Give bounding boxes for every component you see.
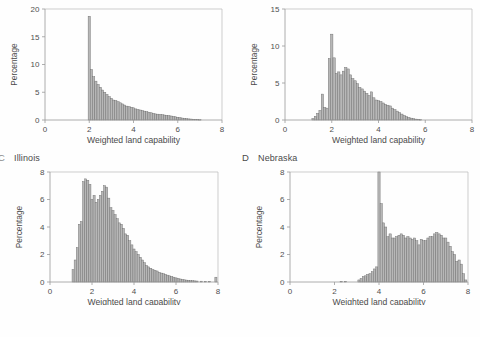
histogram-bar [171, 277, 173, 283]
histogram-bar [460, 264, 462, 282]
histogram-bar [438, 234, 440, 282]
histogram-bar [338, 72, 340, 120]
histogram-bar [137, 255, 139, 283]
histogram-bar [157, 114, 159, 120]
panel-d-chart: 0246802468Weighted land capabilityPercen… [240, 150, 480, 305]
histogram-bar [132, 108, 134, 120]
bar-group [340, 172, 467, 282]
histogram-bar [108, 198, 110, 282]
y-tick-label: 0 [40, 278, 45, 287]
histogram-bar [314, 116, 316, 120]
histogram-bar [74, 260, 76, 282]
histogram-bar [429, 237, 431, 282]
histogram-bar [130, 107, 132, 120]
histogram-bar [126, 106, 128, 120]
histogram-bar [121, 104, 123, 120]
histogram-bar [128, 107, 130, 120]
y-axis-title: Percentage [9, 43, 19, 86]
histogram-bar [328, 59, 330, 120]
histogram-bar [447, 242, 449, 282]
histogram-bar [391, 108, 393, 120]
histogram-bar [72, 270, 74, 282]
histogram-bar [391, 238, 393, 282]
x-tick-label: 0 [48, 287, 53, 296]
histogram-bar [370, 92, 372, 120]
histogram-bar [363, 91, 365, 120]
histogram-bar [139, 257, 141, 282]
histogram-bar [115, 101, 117, 120]
y-tick-label: 2 [40, 250, 45, 259]
x-tick-label: 4 [377, 287, 382, 296]
histogram-bar [376, 267, 378, 282]
histogram-bar [405, 117, 407, 120]
histogram-bar [116, 219, 118, 282]
histogram-bar [340, 75, 342, 120]
histogram-bar [173, 277, 175, 282]
histogram-bar [361, 89, 363, 120]
x-tick-label: 8 [216, 287, 221, 296]
histogram-bar [373, 98, 375, 120]
histogram-bar [120, 224, 122, 282]
histogram-bar [137, 109, 139, 120]
histogram-bar [422, 241, 424, 282]
bar-group [72, 179, 217, 282]
histogram-bar [352, 79, 354, 120]
histogram-bar [158, 272, 160, 282]
y-axis-title: Percentage [14, 205, 24, 248]
bar-group [312, 34, 422, 120]
y-tick-label: 15 [271, 5, 280, 14]
histogram-bar [146, 112, 148, 120]
y-tick-label: 10 [31, 60, 40, 69]
x-axis-title: Weighted land capability [87, 135, 181, 145]
histogram-bar [89, 184, 91, 282]
histogram-bar [175, 278, 177, 282]
y-tick-label: 15 [31, 33, 40, 42]
histogram-bar [382, 223, 384, 282]
histogram-bar [375, 100, 377, 120]
histogram-bar [150, 268, 152, 282]
histogram-bar [462, 274, 464, 282]
histogram-bar [420, 239, 422, 282]
x-tick-label: 2 [330, 125, 335, 134]
histogram-bar [164, 274, 166, 282]
histogram-bar [369, 274, 371, 282]
histogram-bar [354, 81, 356, 120]
histogram-bar [427, 238, 429, 282]
x-tick-label: 2 [90, 287, 95, 296]
figure-sheet: 0510152002468Weighted land capabilityPer… [0, 0, 480, 337]
y-axis-title: Percentage [254, 205, 264, 248]
histogram-bar [393, 238, 395, 282]
histogram-bar [368, 96, 370, 120]
y-tick-label: 6 [40, 195, 45, 204]
histogram-bar [160, 273, 162, 282]
histogram-bar [360, 279, 362, 282]
histogram-bar [159, 114, 161, 120]
histogram-bar [442, 238, 444, 282]
histogram-bar [407, 237, 409, 282]
panel-d-plot: 0246802468Weighted land capabilityPercen… [240, 150, 480, 305]
histogram-bar [380, 102, 382, 121]
y-tick-label: 0 [35, 116, 40, 125]
x-tick-label: 0 [288, 287, 293, 296]
x-tick-label: 4 [132, 287, 137, 296]
x-tick-label: 8 [466, 287, 471, 296]
histogram-bar [143, 263, 145, 282]
histogram-bar [101, 90, 103, 120]
histogram-bar [78, 224, 80, 282]
histogram-bar [387, 237, 389, 282]
x-tick-label: 6 [174, 287, 179, 296]
histogram-bar [359, 87, 361, 120]
histogram-bar [104, 92, 106, 120]
histogram-bar [371, 272, 373, 282]
histogram-bar [403, 116, 405, 120]
histogram-bar [119, 103, 121, 120]
x-tick-label: 2 [332, 287, 337, 296]
histogram-bar [106, 94, 108, 120]
histogram-bar [326, 108, 328, 120]
y-tick-label: 10 [271, 42, 280, 51]
y-tick-label: 5 [35, 88, 40, 97]
histogram-bar [154, 270, 156, 282]
histogram-bar [110, 98, 112, 120]
histogram-bar [174, 117, 176, 120]
panel-b-chart: 05101502468Weighted land capabilityPerce… [240, 0, 480, 147]
